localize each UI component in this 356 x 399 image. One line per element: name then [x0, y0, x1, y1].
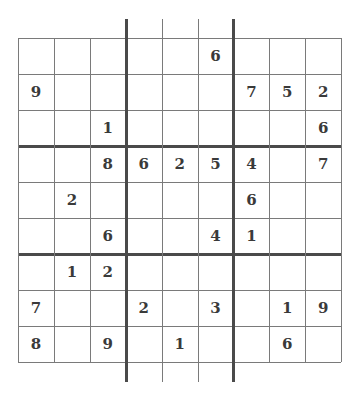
box-divider-horizontal	[18, 253, 341, 256]
sudoku-cell-r2-c5[interactable]	[162, 74, 198, 110]
sudoku-cell-r7-c9[interactable]	[305, 254, 341, 290]
sudoku-cell-r5-c8[interactable]	[269, 182, 305, 218]
box-divider-vertical	[125, 38, 128, 362]
grid-line-vertical	[305, 38, 306, 362]
sudoku-cell-r6-c4[interactable]	[126, 218, 162, 254]
sudoku-cell-r8-c9[interactable]: 9	[305, 290, 341, 326]
sudoku-cell-r3-c1[interactable]	[18, 110, 54, 146]
sudoku-cell-r2-c9[interactable]: 2	[305, 74, 341, 110]
sudoku-cell-r2-c4[interactable]	[126, 74, 162, 110]
sudoku-cell-r1-c7[interactable]	[233, 38, 269, 74]
sudoku-cell-r1-c1[interactable]	[18, 38, 54, 74]
grid-line-vertical	[198, 38, 199, 362]
grid-line-horizontal	[18, 74, 341, 75]
sudoku-cell-r7-c2[interactable]: 1	[54, 254, 90, 290]
grid-line-extension	[125, 19, 128, 38]
sudoku-cell-r9-c1[interactable]: 8	[18, 326, 54, 362]
sudoku-cell-r3-c7[interactable]	[233, 110, 269, 146]
sudoku-cell-r7-c5[interactable]	[162, 254, 198, 290]
sudoku-cell-r9-c2[interactable]	[54, 326, 90, 362]
sudoku-cell-r7-c6[interactable]	[198, 254, 234, 290]
sudoku-cell-r3-c5[interactable]	[162, 110, 198, 146]
sudoku-cell-r4-c7[interactable]: 4	[233, 146, 269, 182]
sudoku-cell-r2-c2[interactable]	[54, 74, 90, 110]
grid-line-vertical	[18, 38, 19, 362]
grid-line-horizontal	[18, 218, 341, 219]
grid-line-vertical	[54, 38, 55, 362]
sudoku-cell-r6-c2[interactable]	[54, 218, 90, 254]
sudoku-board: 69752168625472664112723198916	[18, 38, 341, 362]
sudoku-cell-r6-c1[interactable]	[18, 218, 54, 254]
sudoku-cell-r1-c3[interactable]	[90, 38, 126, 74]
sudoku-cell-r8-c4[interactable]: 2	[126, 290, 162, 326]
sudoku-cell-r9-c4[interactable]	[126, 326, 162, 362]
sudoku-cell-r9-c6[interactable]	[198, 326, 234, 362]
sudoku-cell-r5-c5[interactable]	[162, 182, 198, 218]
sudoku-cell-r4-c6[interactable]: 5	[198, 146, 234, 182]
sudoku-cell-r5-c2[interactable]: 2	[54, 182, 90, 218]
sudoku-cell-r9-c3[interactable]: 9	[90, 326, 126, 362]
sudoku-cell-r3-c8[interactable]	[269, 110, 305, 146]
sudoku-cell-r7-c7[interactable]	[233, 254, 269, 290]
sudoku-cell-r6-c8[interactable]	[269, 218, 305, 254]
sudoku-cell-r6-c6[interactable]: 4	[198, 218, 234, 254]
sudoku-cell-r5-c7[interactable]: 6	[233, 182, 269, 218]
sudoku-cell-r2-c6[interactable]	[198, 74, 234, 110]
sudoku-cell-r8-c7[interactable]	[233, 290, 269, 326]
sudoku-cell-r7-c8[interactable]	[269, 254, 305, 290]
sudoku-cell-r5-c1[interactable]	[18, 182, 54, 218]
sudoku-cell-r1-c4[interactable]	[126, 38, 162, 74]
sudoku-cell-r8-c8[interactable]: 1	[269, 290, 305, 326]
sudoku-cell-r9-c7[interactable]	[233, 326, 269, 362]
grid-line-extension	[232, 19, 235, 38]
grid-line-horizontal	[18, 326, 341, 327]
sudoku-cell-r4-c8[interactable]	[269, 146, 305, 182]
sudoku-cell-r4-c4[interactable]: 6	[126, 146, 162, 182]
sudoku-cell-r2-c1[interactable]: 9	[18, 74, 54, 110]
sudoku-cell-r3-c4[interactable]	[126, 110, 162, 146]
grid-line-horizontal	[18, 290, 341, 291]
grid-line-horizontal	[18, 362, 341, 363]
grid-line-horizontal	[18, 38, 341, 39]
sudoku-cell-r4-c3[interactable]: 8	[90, 146, 126, 182]
grid-line-vertical	[341, 38, 342, 362]
grid-line-extension	[198, 19, 199, 38]
grid-line-vertical	[90, 38, 91, 362]
sudoku-cell-r7-c4[interactable]	[126, 254, 162, 290]
sudoku-cell-r2-c8[interactable]: 5	[269, 74, 305, 110]
sudoku-cell-r1-c8[interactable]	[269, 38, 305, 74]
sudoku-cell-r1-c5[interactable]	[162, 38, 198, 74]
sudoku-cell-r5-c6[interactable]	[198, 182, 234, 218]
sudoku-cell-r9-c8[interactable]: 6	[269, 326, 305, 362]
sudoku-cell-r5-c3[interactable]	[90, 182, 126, 218]
sudoku-cell-r4-c1[interactable]	[18, 146, 54, 182]
sudoku-cell-r6-c7[interactable]: 1	[233, 218, 269, 254]
sudoku-cell-r6-c9[interactable]	[305, 218, 341, 254]
sudoku-cell-r6-c5[interactable]	[162, 218, 198, 254]
sudoku-cell-r8-c5[interactable]	[162, 290, 198, 326]
sudoku-cell-r5-c9[interactable]	[305, 182, 341, 218]
sudoku-cell-r1-c9[interactable]	[305, 38, 341, 74]
grid-line-extension	[125, 362, 128, 382]
sudoku-cell-r2-c3[interactable]	[90, 74, 126, 110]
sudoku-cell-r3-c6[interactable]	[198, 110, 234, 146]
sudoku-cell-r6-c3[interactable]: 6	[90, 218, 126, 254]
sudoku-cell-r4-c5[interactable]: 2	[162, 146, 198, 182]
sudoku-cell-r7-c1[interactable]	[18, 254, 54, 290]
sudoku-cell-r8-c3[interactable]	[90, 290, 126, 326]
sudoku-cell-r3-c3[interactable]: 1	[90, 110, 126, 146]
sudoku-cell-r8-c6[interactable]: 3	[198, 290, 234, 326]
sudoku-cell-r3-c9[interactable]: 6	[305, 110, 341, 146]
sudoku-cell-r2-c7[interactable]: 7	[233, 74, 269, 110]
sudoku-cell-r5-c4[interactable]	[126, 182, 162, 218]
sudoku-cell-r4-c9[interactable]: 7	[305, 146, 341, 182]
sudoku-cell-r1-c6[interactable]: 6	[198, 38, 234, 74]
sudoku-cell-r1-c2[interactable]	[54, 38, 90, 74]
sudoku-cell-r9-c9[interactable]	[305, 326, 341, 362]
sudoku-cell-r3-c2[interactable]	[54, 110, 90, 146]
sudoku-cell-r8-c2[interactable]	[54, 290, 90, 326]
sudoku-cell-r8-c1[interactable]: 7	[18, 290, 54, 326]
sudoku-cell-r4-c2[interactable]	[54, 146, 90, 182]
sudoku-cell-r7-c3[interactable]: 2	[90, 254, 126, 290]
sudoku-cell-r9-c5[interactable]: 1	[162, 326, 198, 362]
